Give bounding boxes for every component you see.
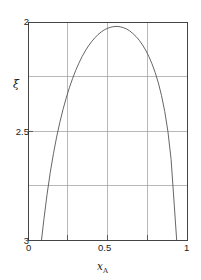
x-axis-title-subscript: A: [103, 267, 108, 275]
y-axis-title: ξ: [13, 79, 19, 90]
x-tick-label-0.5: 0.5: [98, 243, 111, 253]
y-tick-label-2: 2: [24, 17, 29, 27]
chart-figure: 2 2.5 3 0 0.5 1 ξ xA: [0, 0, 201, 280]
x-axis-title: xA: [97, 261, 108, 275]
plot-area: [0, 0, 201, 280]
y-tick-label-2.5: 2.5: [16, 127, 29, 137]
x-tick-label-0: 0: [26, 243, 31, 253]
x-tick-label-1: 1: [184, 243, 189, 253]
